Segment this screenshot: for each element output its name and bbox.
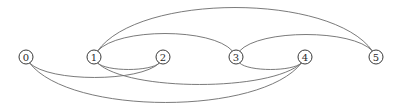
node-3: 3 — [229, 50, 243, 64]
edge-1-5 — [98, 8, 373, 52]
edge-1-4 — [98, 63, 302, 85]
node-label: 4 — [302, 52, 308, 63]
node-2: 2 — [156, 50, 170, 64]
node-0: 0 — [19, 50, 33, 64]
arc-diagram-svg: 012345 — [0, 0, 399, 111]
edge-0-2 — [30, 63, 160, 78]
node-1: 1 — [87, 50, 101, 64]
nodes-layer: 012345 — [19, 50, 383, 64]
node-4: 4 — [298, 50, 312, 64]
edges-layer — [30, 8, 373, 103]
node-label: 3 — [233, 52, 239, 63]
node-label: 5 — [373, 52, 379, 63]
edge-3-4 — [240, 63, 302, 70]
node-label: 0 — [23, 52, 29, 63]
arc-diagram: 012345 — [0, 0, 399, 111]
edge-3-5 — [240, 35, 373, 52]
edge-1-3 — [98, 34, 233, 52]
node-label: 1 — [91, 52, 97, 63]
node-label: 2 — [160, 52, 166, 63]
node-5: 5 — [369, 50, 383, 64]
